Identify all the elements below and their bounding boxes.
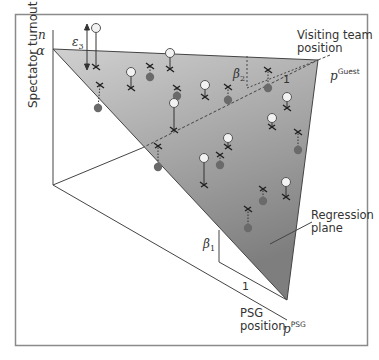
- observed-value-marker-icon: [216, 161, 224, 169]
- guest-axis-pointer: [318, 55, 330, 60]
- observed-value-marker-icon: [127, 68, 136, 77]
- observed-value-marker-icon: [268, 114, 277, 123]
- regression-plane-diagram: Spectator turnout n α ε3 Visiting team p…: [0, 0, 379, 360]
- observed-value-marker-icon: [154, 163, 162, 171]
- psg-label-1: PSG: [240, 306, 263, 320]
- psg-axis-label: pPSG: [283, 320, 306, 336]
- observed-value-marker-icon: [146, 73, 154, 81]
- observed-value-marker-icon: [259, 197, 267, 205]
- observed-value-marker-icon: [244, 224, 252, 232]
- error-label: ε3: [72, 35, 84, 51]
- observed-value-marker-icon: [170, 99, 179, 108]
- guest-axis-line-solid: [53, 148, 142, 185]
- observed-value-marker-icon: [92, 24, 101, 33]
- guest-unit-label: 1: [283, 73, 290, 86]
- observed-value-marker-icon: [166, 49, 175, 58]
- visiting-team-label-1: Visiting team: [297, 28, 373, 42]
- visiting-team-label-2: position: [297, 41, 343, 55]
- observed-value-marker-icon: [282, 178, 291, 187]
- y-axis-var: n: [38, 28, 46, 42]
- intercept-label: α: [36, 43, 45, 58]
- observed-value-marker-icon: [294, 146, 302, 154]
- psg-unit-label: 1: [242, 280, 249, 293]
- observed-value-marker-icon: [264, 84, 272, 92]
- plane-label-2: plane: [311, 221, 343, 235]
- guest-axis-label: pGuest: [330, 67, 360, 83]
- observed-value-marker-icon: [224, 134, 233, 143]
- observed-value-marker-icon: [224, 96, 232, 104]
- observed-value-marker-icon: [200, 154, 209, 163]
- observed-value-marker-icon: [94, 104, 102, 112]
- observed-value-marker-icon: [283, 93, 292, 102]
- beta1-label: β1: [202, 237, 215, 253]
- plane-label-1: Regression: [311, 208, 374, 222]
- regression-plane: [53, 49, 318, 300]
- psg-label-2: position: [240, 319, 286, 333]
- observed-value-marker-icon: [201, 81, 210, 90]
